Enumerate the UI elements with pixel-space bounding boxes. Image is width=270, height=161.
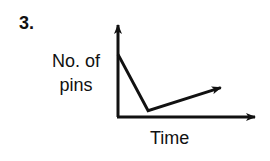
series-line — [118, 54, 221, 110]
sketch-graph — [0, 0, 270, 161]
